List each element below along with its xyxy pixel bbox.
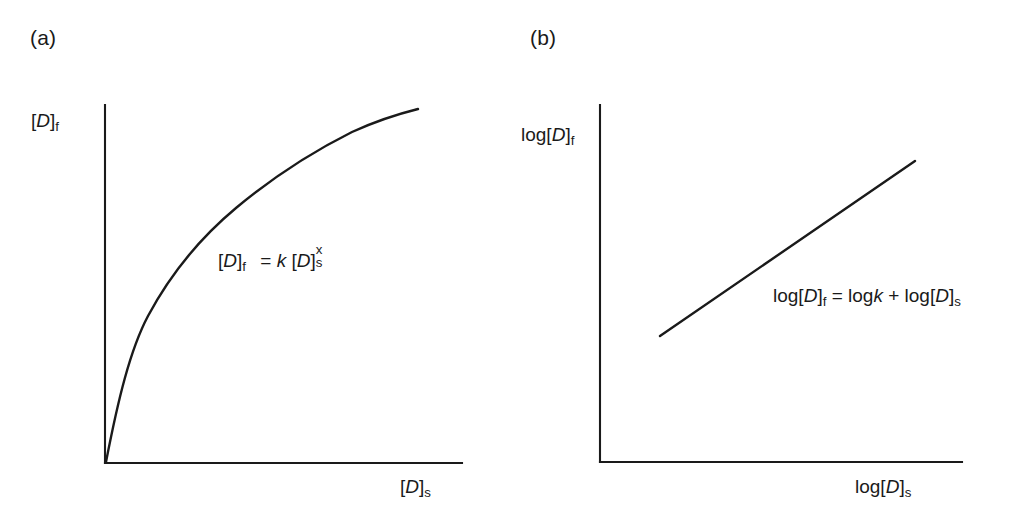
panel-b-x-subscript: s bbox=[905, 485, 912, 500]
eq-b-lhs-log: log bbox=[773, 285, 798, 306]
panel-a-power-law-curve bbox=[106, 109, 418, 462]
panel-b-x-variable: D bbox=[886, 476, 900, 497]
panel-a: (a) [D]f [D]s [D]f = k [D]xs bbox=[0, 0, 507, 532]
eq-b-term2-subscript: s bbox=[954, 294, 961, 309]
eq-b-operator: = bbox=[832, 285, 843, 306]
eq-a-lhs-variable: D bbox=[223, 250, 237, 271]
panel-b-equation: log[D]f = logk + log[D]s bbox=[773, 285, 961, 309]
eq-b-term2-log: log bbox=[905, 285, 930, 306]
panel-b-y-subscript: f bbox=[571, 133, 575, 148]
panel-b-y-log: log bbox=[521, 124, 546, 145]
panel-a-y-axis-label: [D]f bbox=[31, 110, 59, 134]
eq-a-coefficient: k bbox=[277, 250, 287, 271]
panel-b-loglog-line bbox=[660, 161, 915, 336]
panel-b-plot bbox=[507, 0, 1014, 532]
eq-b-plus: + bbox=[888, 285, 899, 306]
panel-a-y-variable: D bbox=[36, 110, 50, 131]
figure-container: (a) [D]f [D]s [D]f = k [D]xs (b) bbox=[0, 0, 1014, 532]
eq-a-lhs-subscript: f bbox=[242, 259, 246, 274]
eq-a-rhs-subscript: s bbox=[316, 255, 323, 270]
eq-b-term1-log: log bbox=[848, 285, 873, 306]
eq-b-lhs-subscript: f bbox=[823, 294, 827, 309]
eq-a-exponent-stack: xs bbox=[316, 248, 328, 267]
panel-a-equation: [D]f = k [D]xs bbox=[218, 248, 328, 274]
eq-b-lhs-variable: D bbox=[804, 285, 818, 306]
eq-a-rhs-variable: D bbox=[297, 250, 311, 271]
panel-b-y-axis-label: log[D]f bbox=[521, 124, 574, 148]
panel-b-y-variable: D bbox=[552, 124, 566, 145]
panel-a-x-axis-label: [D]s bbox=[400, 476, 431, 500]
panel-b: (b) log[D]f log[D]s log[D]f = logk + log… bbox=[507, 0, 1014, 532]
panel-a-y-subscript: f bbox=[55, 119, 59, 134]
panel-a-x-subscript: s bbox=[424, 485, 431, 500]
eq-b-term1-variable: k bbox=[873, 285, 883, 306]
panel-b-x-axis-label: log[D]s bbox=[855, 476, 911, 500]
eq-a-operator: = bbox=[260, 250, 271, 271]
panel-a-x-variable: D bbox=[405, 476, 419, 497]
eq-b-term2-variable: D bbox=[935, 285, 949, 306]
panel-b-x-log: log bbox=[855, 476, 880, 497]
